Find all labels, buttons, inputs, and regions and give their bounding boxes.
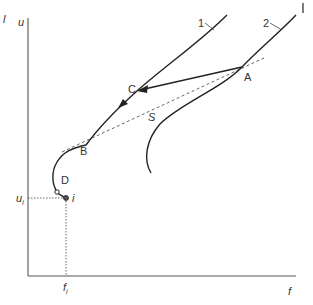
corner-mark: l [3,13,6,25]
transition-a-to-c [140,67,242,90]
x-axis-label: f [288,285,292,297]
f-i-label: fi [63,281,68,295]
point-i-label: i [72,192,75,204]
point-c-label: C [128,83,136,95]
point-d [55,190,59,194]
u-i-label: ui [16,192,24,206]
curve-1-leader [205,23,214,30]
point-i [64,196,69,201]
point-b-label: B [80,145,87,157]
line-s [62,57,266,152]
y-axis-label: u [18,16,24,28]
curve-1 [53,15,227,198]
curve-2-leader [270,23,282,30]
point-d-label: D [61,174,69,186]
curve-1-label: 1 [198,17,204,29]
point-a-label: A [244,71,252,83]
curve-2-label: 2 [263,17,269,29]
curve-2 [147,15,296,173]
phase-diagram: l u f ui fi S 1 2 A B C D i [0,0,313,305]
line-s-label: S [148,111,156,123]
